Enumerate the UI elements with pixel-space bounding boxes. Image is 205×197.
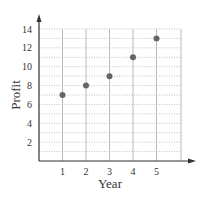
y-tick-label: 8 [27, 80, 32, 91]
x-axis-arrow-icon [188, 159, 196, 164]
y-tick-label: 2 [27, 137, 32, 148]
x-axis-label: Year [98, 176, 123, 191]
y-tick-labels: 2468101214 [22, 24, 32, 148]
data-point [60, 92, 66, 98]
y-tick-label: 12 [22, 42, 32, 53]
data-point [130, 54, 136, 60]
y-axis-label: Profit [8, 80, 23, 110]
y-tick-label: 4 [27, 118, 32, 129]
scatter-chart: 2468101214 12345 Year Profit [0, 0, 205, 197]
x-tick-label: 2 [84, 166, 89, 177]
x-tick-label: 1 [60, 166, 65, 177]
axes [37, 14, 197, 164]
x-tick-label: 5 [154, 166, 159, 177]
y-tick-label: 14 [22, 24, 32, 35]
y-tick-label: 10 [22, 61, 32, 72]
y-tick-label: 6 [27, 99, 32, 110]
data-point [83, 83, 89, 89]
data-point [107, 73, 113, 79]
y-axis-arrow-icon [37, 14, 42, 22]
x-tick-label: 4 [131, 166, 136, 177]
data-point [154, 35, 160, 41]
